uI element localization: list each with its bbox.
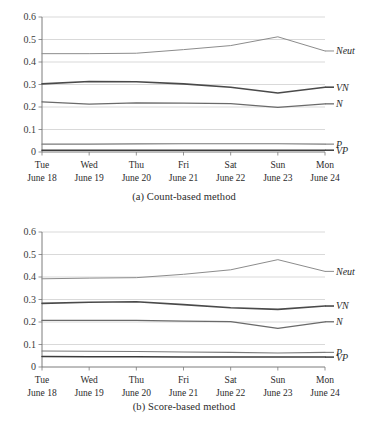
line-chart-count-based: 00.10.20.30.40.50.6TueJune 18WedJune 19T… (0, 0, 368, 190)
x-tick-label-date: June 18 (27, 173, 57, 183)
y-tick-label: 0.4 (24, 271, 37, 282)
x-tick-label-day: Sat (225, 375, 238, 385)
figure-caption-a: (a) Count-based method (0, 191, 368, 202)
figure-count-based-method: 00.10.20.30.40.50.6TueJune 18WedJune 19T… (0, 0, 368, 215)
x-tick-label-day: Mon (316, 160, 334, 170)
x-tick-label-day: Sun (270, 160, 285, 170)
y-tick-label: 0.1 (24, 339, 37, 350)
y-tick-label: 0.6 (24, 226, 37, 237)
series-label-Neut: Neut (335, 45, 355, 56)
x-tick-label-date: June 22 (216, 388, 246, 398)
series-label-VN: VN (336, 300, 350, 311)
series-line-N (42, 320, 325, 328)
x-tick-label-day: Fri (178, 160, 189, 170)
series-label-VP: VP (336, 145, 348, 156)
figure-score-based-method: 00.10.20.30.40.50.6TueJune 18WedJune 19T… (0, 215, 368, 437)
x-tick-label-day: Wed (81, 375, 98, 385)
series-label-Neut: Neut (335, 266, 355, 277)
series-line-VP (42, 356, 325, 357)
series-label-VP: VP (336, 352, 348, 363)
chart-area-a: 00.10.20.30.40.50.6TueJune 18WedJune 19T… (0, 0, 368, 190)
line-chart-score-based: 00.10.20.30.40.50.6TueJune 18WedJune 19T… (0, 215, 368, 405)
x-tick-label-date: June 22 (216, 173, 246, 183)
chart-area-b: 00.10.20.30.40.50.6TueJune 18WedJune 19T… (0, 215, 368, 405)
y-tick-label: 0.2 (24, 316, 37, 327)
x-tick-label-day: Tue (35, 375, 49, 385)
series-line-N (42, 102, 325, 108)
y-tick-label: 0.2 (24, 101, 37, 112)
x-tick-label-date: June 20 (122, 173, 152, 183)
series-line-P (42, 351, 325, 353)
series-label-VN: VN (336, 82, 350, 93)
x-tick-label-day: Mon (316, 375, 334, 385)
y-tick-label: 0 (31, 361, 36, 372)
x-tick-label-day: Sun (270, 375, 285, 385)
y-tick-label: 0.4 (24, 56, 37, 67)
series-line-Neut (42, 260, 325, 279)
x-tick-label-date: June 24 (310, 173, 340, 183)
x-tick-label-date: June 23 (263, 388, 293, 398)
x-tick-label-date: June 18 (27, 388, 57, 398)
x-tick-label-date: June 24 (310, 388, 340, 398)
y-tick-label: 0 (31, 146, 36, 157)
x-tick-label-date: June 20 (122, 388, 152, 398)
y-tick-label: 0.5 (24, 249, 37, 260)
series-line-VN (42, 302, 325, 310)
series-line-VN (42, 82, 325, 93)
x-tick-label-date: June 21 (169, 388, 199, 398)
figure-caption-b: (b) Score-based method (0, 401, 368, 412)
x-tick-label-date: June 19 (75, 388, 105, 398)
x-tick-label-date: June 23 (263, 173, 293, 183)
y-tick-label: 0.1 (24, 124, 37, 135)
y-tick-label: 0.3 (24, 294, 37, 305)
x-tick-label-date: June 21 (169, 173, 199, 183)
series-label-N: N (335, 98, 344, 109)
x-tick-label-day: Thu (129, 375, 145, 385)
x-tick-label-date: June 19 (75, 173, 105, 183)
y-tick-label: 0.6 (24, 11, 37, 22)
series-label-N: N (335, 316, 344, 327)
x-tick-label-day: Tue (35, 160, 49, 170)
x-tick-label-day: Wed (81, 160, 98, 170)
x-tick-label-day: Thu (129, 160, 145, 170)
y-tick-label: 0.3 (24, 79, 37, 90)
x-tick-label-day: Fri (178, 375, 189, 385)
x-tick-label-day: Sat (225, 160, 238, 170)
y-tick-label: 0.5 (24, 34, 37, 45)
